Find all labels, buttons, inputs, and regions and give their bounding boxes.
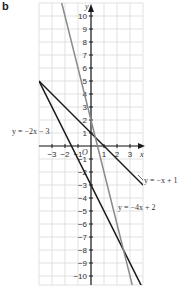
y-tick-label: 6 — [83, 64, 88, 73]
y-tick-label: 7 — [83, 51, 88, 60]
y-tick-label: 8 — [83, 38, 88, 47]
label-series-3: y = −4x + 2 — [118, 203, 156, 212]
y-tick-label: 5 — [83, 77, 88, 86]
y-tick-label: −10 — [73, 272, 87, 281]
y-tick-label: −4 — [78, 194, 88, 203]
series-line — [62, 3, 133, 286]
y-tick-label: 10 — [78, 12, 87, 21]
y-tick-label: −3 — [78, 181, 88, 190]
y-axis-arrow-icon — [88, 4, 94, 12]
y-tick-label: −8 — [78, 246, 88, 255]
x-tick-label: −2 — [60, 150, 70, 159]
y-tick-label: 1 — [83, 129, 88, 138]
x-tick-label: 1 — [102, 150, 107, 159]
origin-label: O — [82, 148, 88, 157]
x-tick-label: −3 — [47, 150, 57, 159]
line-graph: −3−2−112310987654321−1−2−3−4−5−6−7−8−9−1… — [0, 0, 187, 289]
label-series-1: y = −2x − 3 — [12, 127, 50, 136]
leader-line — [138, 175, 143, 180]
equation-labels: y = −2x − 3y = −x + 1y = −4x + 2 — [12, 127, 178, 212]
x-axis-arrow-icon — [138, 143, 145, 149]
y-tick-label: −5 — [78, 207, 88, 216]
axes — [39, 4, 145, 285]
y-tick-label: −7 — [78, 233, 88, 242]
label-series-2: y = −x + 1 — [144, 176, 178, 185]
y-tick-label: −6 — [78, 220, 88, 229]
y-axis-label: y — [84, 2, 89, 11]
x-axis-label: x — [139, 150, 144, 159]
y-tick-label: 2 — [83, 116, 88, 125]
y-tick-label: −9 — [78, 259, 88, 268]
y-tick-label: 9 — [83, 25, 88, 34]
x-tick-label: 3 — [128, 150, 133, 159]
